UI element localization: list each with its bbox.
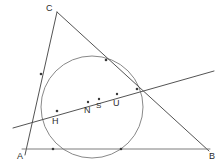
triangle-side-ca [25, 12, 57, 155]
inscribed-circle [41, 56, 143, 158]
dot-ca-tangent [40, 73, 43, 76]
dot-transversal-u [116, 93, 118, 95]
geometry-canvas [0, 0, 224, 168]
point-label-s: S [96, 102, 101, 110]
vertex-label-a: A [17, 152, 23, 161]
dot-transversal-n [87, 101, 89, 103]
point-label-u: U [113, 99, 120, 108]
vertex-label-c: C [46, 4, 53, 13]
dot-ab-left [52, 148, 55, 151]
point-label-h: H [52, 117, 59, 126]
vertex-label-b: B [209, 152, 215, 161]
dot-cb-tangent [105, 59, 108, 62]
geometry-figure: C A B H N S U [0, 0, 224, 168]
dot-transversal-h [56, 110, 59, 113]
dot-transversal-s [98, 98, 100, 100]
point-label-n: N [84, 106, 91, 115]
dot-ab-right [120, 148, 123, 151]
triangle-side-cb [57, 12, 209, 151]
dot-cb-circle [136, 88, 139, 91]
